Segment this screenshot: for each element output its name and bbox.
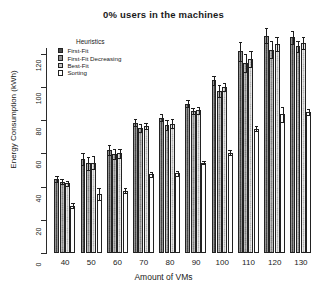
- error-bar: [298, 41, 299, 53]
- error-bar-cap: [55, 176, 58, 177]
- y-tick-mark: [41, 220, 46, 221]
- error-bar: [251, 51, 252, 68]
- legend-label: First-Fit Decreasing: [67, 55, 121, 62]
- error-bar-cap: [171, 128, 174, 129]
- error-bar: [83, 153, 84, 165]
- bar-best-fit: [144, 126, 149, 253]
- error-bar-cap: [186, 100, 189, 101]
- legend-title: Heuristics: [76, 38, 121, 45]
- bar-best-fit: [65, 183, 70, 253]
- error-bar: [214, 76, 215, 84]
- bar-best-fit: [91, 163, 96, 253]
- y-tick-mark: [41, 253, 46, 254]
- error-bar-cap: [92, 169, 95, 170]
- legend-item[interactable]: Best-Fit: [58, 62, 121, 69]
- error-bar-cap: [60, 184, 63, 185]
- error-bar-cap: [165, 120, 168, 121]
- x-tick-label: 70: [131, 258, 157, 267]
- bar-best-fit: [301, 43, 306, 253]
- error-bar-cap: [144, 129, 147, 130]
- legend-label: Sorting: [67, 69, 87, 76]
- error-bar: [167, 120, 168, 130]
- error-bar-cap: [270, 58, 273, 59]
- error-bar-cap: [265, 28, 268, 29]
- bar-first-fit: [290, 37, 295, 253]
- bar-best-fit: [222, 87, 227, 253]
- error-bar-cap: [307, 115, 310, 116]
- y-tick-mark: [41, 120, 46, 121]
- error-bar-cap: [118, 149, 121, 150]
- bar-group: [212, 34, 233, 253]
- bar-best-fit: [117, 153, 122, 253]
- chart-title: 0% users in the machines: [0, 9, 327, 20]
- error-bar-cap: [197, 107, 200, 108]
- error-bar-cap: [223, 91, 226, 92]
- error-bar-cap: [244, 54, 247, 55]
- error-bar-cap: [218, 85, 221, 86]
- bar-first-fit: [81, 159, 86, 253]
- error-bar-cap: [275, 51, 278, 52]
- error-bar-cap: [118, 158, 121, 159]
- error-bar-cap: [66, 181, 69, 182]
- error-bar-cap: [228, 150, 231, 151]
- error-bar: [141, 124, 142, 132]
- error-bar-cap: [191, 114, 194, 115]
- error-bar-cap: [223, 83, 226, 84]
- error-bar-cap: [307, 109, 310, 110]
- error-bar-cap: [302, 37, 305, 38]
- error-bar-cap: [87, 170, 90, 171]
- error-bar: [266, 28, 267, 43]
- y-tick-label: 60: [35, 153, 42, 177]
- error-bar: [94, 156, 95, 169]
- error-bar-cap: [291, 31, 294, 32]
- bar-sorting: [70, 206, 75, 253]
- bar-first-fit-decreasing: [269, 50, 274, 253]
- bar-sorting: [254, 129, 259, 253]
- error-bar-cap: [239, 42, 242, 43]
- y-tick-mark: [41, 87, 46, 88]
- legend-item[interactable]: First-Fit Decreasing: [58, 54, 121, 61]
- error-bar-cap: [202, 164, 205, 165]
- legend-item[interactable]: First-Fit: [58, 47, 121, 54]
- error-bar-cap: [139, 132, 142, 133]
- x-axis-label: Amount of VMs: [0, 272, 327, 282]
- bar-best-fit: [275, 44, 280, 253]
- legend-swatch-icon: [58, 63, 63, 68]
- bar-best-fit: [170, 124, 175, 253]
- error-bar-cap: [92, 156, 95, 157]
- error-bar-cap: [265, 43, 268, 44]
- bar-sorting: [228, 153, 233, 253]
- bar-sorting: [149, 174, 154, 253]
- legend: Heuristics First-FitFirst-Fit Decreasing…: [58, 38, 121, 77]
- bar-first-fit: [133, 123, 138, 253]
- error-bar-cap: [281, 107, 284, 108]
- x-tick-label: 40: [52, 258, 78, 267]
- error-bar-cap: [296, 41, 299, 42]
- legend-swatch-icon: [58, 55, 63, 60]
- legend-item[interactable]: Sorting: [58, 69, 121, 76]
- bar-first-fit: [212, 80, 217, 253]
- error-bar-cap: [71, 203, 74, 204]
- y-axis-line: [46, 48, 47, 254]
- error-bar-cap: [218, 97, 221, 98]
- bar-first-fit: [107, 150, 112, 253]
- error-bar: [272, 41, 273, 58]
- bar-first-fit-decreasing: [165, 125, 170, 253]
- error-bar-cap: [212, 76, 215, 77]
- bar-first-fit-decreasing: [296, 46, 301, 253]
- bar-sorting: [97, 194, 102, 253]
- error-bar-cap: [302, 49, 305, 50]
- error-bar-cap: [97, 188, 100, 189]
- y-tick-label: 100: [35, 87, 42, 111]
- bar-first-fit: [185, 104, 190, 253]
- bar-sorting: [175, 173, 180, 253]
- x-tick-label: 120: [262, 258, 288, 267]
- bar-first-fit: [264, 36, 269, 253]
- x-tick-label: 90: [183, 258, 209, 267]
- x-tick-label: 110: [235, 258, 261, 267]
- x-tick-label: 60: [104, 258, 130, 267]
- error-bar-cap: [150, 172, 153, 173]
- error-bar-cap: [197, 114, 200, 115]
- y-tick-label: 0: [35, 253, 42, 277]
- error-bar-cap: [124, 193, 127, 194]
